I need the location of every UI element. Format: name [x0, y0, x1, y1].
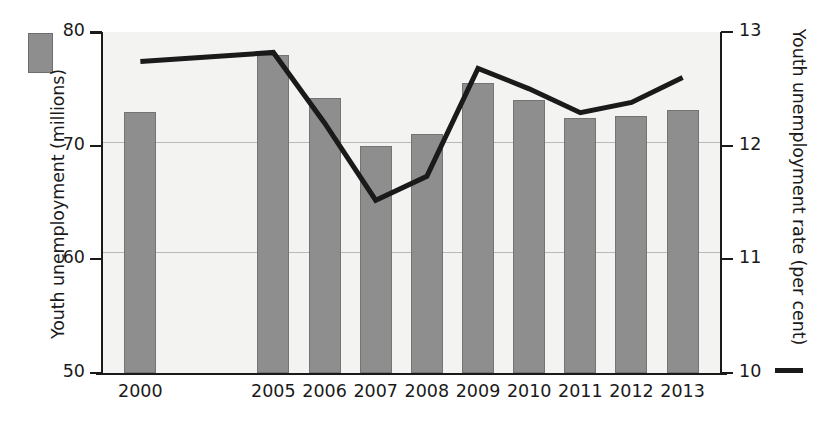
left-tick-label-50: 50 — [63, 361, 85, 381]
left-tick-label-70: 70 — [63, 134, 85, 154]
left-tick-label-80: 80 — [63, 20, 85, 40]
x-tick-label-2005: 2005 — [251, 381, 296, 401]
right-tick-10 — [721, 372, 733, 374]
x-tick-label-2006: 2006 — [302, 381, 347, 401]
right-tick-13 — [721, 31, 733, 33]
right-tick-label-13: 13 — [739, 20, 761, 40]
x-tick-label-2013: 2013 — [660, 381, 705, 401]
bar-2007 — [360, 146, 392, 373]
chart-figure: Youth unemployment (millions) Youth unem… — [0, 0, 837, 423]
line-legend-swatch — [775, 368, 803, 373]
left-tick-label-60: 60 — [63, 247, 85, 267]
plot-area — [102, 32, 721, 373]
bar-2008 — [411, 134, 443, 373]
x-tick-label-2007: 2007 — [353, 381, 398, 401]
left-tick-50 — [90, 372, 102, 374]
x-tick-label-2009: 2009 — [456, 381, 501, 401]
bar-2013 — [667, 110, 699, 373]
left-tick-60 — [90, 258, 102, 260]
right-tick-12 — [721, 145, 733, 147]
bar-2010 — [513, 100, 545, 373]
right-axis-spine — [720, 32, 722, 374]
bar-2009 — [462, 83, 494, 373]
x-tick-label-2000: 2000 — [118, 381, 163, 401]
right-tick-11 — [721, 258, 733, 260]
right-tick-label-12: 12 — [739, 134, 761, 154]
bar-2012 — [615, 116, 647, 373]
left-tick-70 — [90, 145, 102, 147]
bar-2006 — [309, 98, 341, 373]
x-tick-label-2010: 2010 — [507, 381, 552, 401]
right-tick-label-11: 11 — [739, 247, 761, 267]
left-axis-spine — [101, 32, 103, 374]
bar-2000 — [124, 112, 156, 373]
right-tick-label-10: 10 — [739, 361, 761, 381]
x-tick-label-2012: 2012 — [609, 381, 654, 401]
right-axis-title: Youth unemployment rate (per cent) — [789, 22, 809, 352]
x-tick-label-2011: 2011 — [558, 381, 603, 401]
left-tick-80 — [90, 31, 102, 33]
bottom-axis-spine — [96, 373, 727, 375]
x-tick-label-2008: 2008 — [405, 381, 450, 401]
bar-2005 — [257, 55, 289, 373]
left-axis-title: Youth unemployment (millions) — [48, 39, 68, 369]
bar-2011 — [564, 118, 596, 373]
